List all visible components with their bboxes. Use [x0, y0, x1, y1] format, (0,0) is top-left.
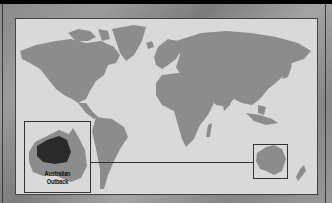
world-map: Australian Outback — [15, 18, 318, 195]
frame-edge-left — [2, 4, 3, 203]
frame-edge-right — [325, 4, 326, 203]
inset-connector-line — [91, 162, 253, 163]
inset-title-line2: Outback — [32, 178, 84, 186]
australian-outback-inset[interactable]: Australian Outback — [24, 121, 91, 193]
metal-frame: Australian Outback — [0, 4, 332, 203]
australia-target-box[interactable] — [253, 144, 288, 179]
inset-title-line1: Australian — [32, 170, 84, 178]
